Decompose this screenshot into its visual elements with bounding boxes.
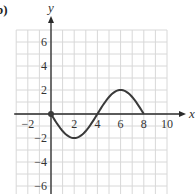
y-tick-label: 2 xyxy=(41,83,47,97)
origin-point xyxy=(48,111,54,117)
y-tick-label: −4 xyxy=(34,155,47,169)
x-tick-label: −2 xyxy=(21,117,34,131)
y-tick-label: −6 xyxy=(34,179,47,193)
y-tick-label: 4 xyxy=(41,59,47,73)
x-tick-label: 8 xyxy=(141,117,147,131)
y-axis-label: y xyxy=(46,0,54,15)
x-tick-label: 2 xyxy=(71,117,77,131)
x-tick-label: 6 xyxy=(118,117,124,131)
x-tick-label: 10 xyxy=(161,117,173,131)
x-axis-label: x xyxy=(188,106,195,121)
y-axis-arrow-icon xyxy=(48,16,54,23)
graph: xy−2246810642−2−4−6 xyxy=(0,0,196,194)
y-tick-label: 6 xyxy=(41,35,47,49)
y-tick-label: −2 xyxy=(34,131,47,145)
x-axis-arrow-icon xyxy=(179,111,186,117)
